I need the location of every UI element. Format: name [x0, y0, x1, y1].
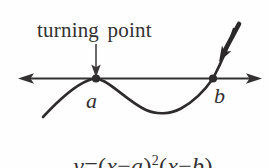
emphasis-pointer-arrow-icon — [219, 24, 239, 62]
equation-var-2: x — [167, 153, 178, 168]
point-b-dot-icon — [209, 74, 217, 82]
figure-container: turning point a b y=(x−a)2(x−b) — [0, 0, 270, 168]
equation-close-paren-1: ) — [143, 153, 151, 168]
cubic-curve — [43, 29, 234, 117]
turning-point-label: turning point — [37, 20, 152, 41]
root-label-b: b — [214, 85, 225, 107]
x-axis — [18, 73, 262, 84]
emphasis-shaft — [224, 24, 239, 52]
equation-exponent: 2 — [152, 153, 159, 168]
equation-close-paren-2: ) — [204, 153, 212, 168]
equation-var-1: x — [106, 153, 117, 168]
equation-root-a: a — [131, 153, 143, 168]
equation-lhs: y — [73, 153, 84, 168]
equation-minus-1: − — [117, 153, 131, 168]
equation-equals: = — [84, 153, 98, 168]
equation-caption: y=(x−a)2(x−b) — [48, 130, 213, 168]
equation-root-b: b — [192, 153, 204, 168]
equation-minus-2: − — [178, 153, 192, 168]
curve-path — [43, 29, 234, 117]
turning-point-pointer-arrow-icon — [91, 44, 100, 78]
root-label-a: a — [86, 90, 97, 112]
